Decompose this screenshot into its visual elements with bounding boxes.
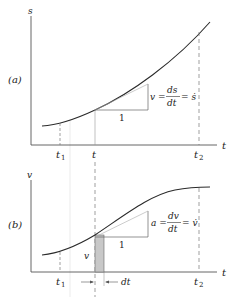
equation-b-num: dv xyxy=(168,211,179,221)
slope-hypotenuse-a xyxy=(95,84,148,110)
t1-sub-b: 1 xyxy=(61,281,65,289)
equation-a-num: ds xyxy=(167,85,178,95)
equation-b-den: dt xyxy=(168,224,178,234)
panel-b-label: (b) xyxy=(8,219,22,230)
equation-a-den: dt xyxy=(167,98,177,108)
t1-sub-a: 1 xyxy=(61,154,65,162)
kinematics-diagram: s t (a) 1 v = ds dt = ṡ t 1 t t 2 v t (b… xyxy=(0,0,235,297)
equation-a-lhs: v = xyxy=(150,92,166,102)
s-curve xyxy=(42,22,210,126)
s-axis-label: s xyxy=(28,6,33,16)
slope-hypotenuse-b xyxy=(95,211,148,237)
panel-a: s t (a) 1 v = ds dt = ṡ t 1 t t 2 xyxy=(8,6,227,162)
t2-sub-a: 2 xyxy=(199,154,203,162)
panel-a-label: (a) xyxy=(8,74,22,85)
equation-b-lhs: a = xyxy=(151,218,167,228)
v-dt-strip xyxy=(95,235,104,272)
slope-unit-b: 1 xyxy=(119,240,125,250)
t-axis-label-a: t xyxy=(222,140,227,151)
dt-arrow-left-icon xyxy=(90,281,94,284)
equation-a-rhs: = ṡ xyxy=(181,92,196,102)
equation-b-rhs: = v̇ xyxy=(182,218,198,228)
t2-sub-b: 2 xyxy=(199,281,203,289)
t-axis-label-b: t xyxy=(222,267,227,278)
panel-b: v t (b) 1 a = dv dt = v̇ v t 1 t 2 dt xyxy=(8,170,227,289)
slope-unit-a: 1 xyxy=(119,113,125,123)
dt-arrow-right-icon xyxy=(105,281,109,284)
t-label-a: t xyxy=(92,149,97,160)
strip-v-label: v xyxy=(84,251,89,261)
dt-label: dt xyxy=(121,277,131,287)
v-axis-label: v xyxy=(27,170,32,180)
